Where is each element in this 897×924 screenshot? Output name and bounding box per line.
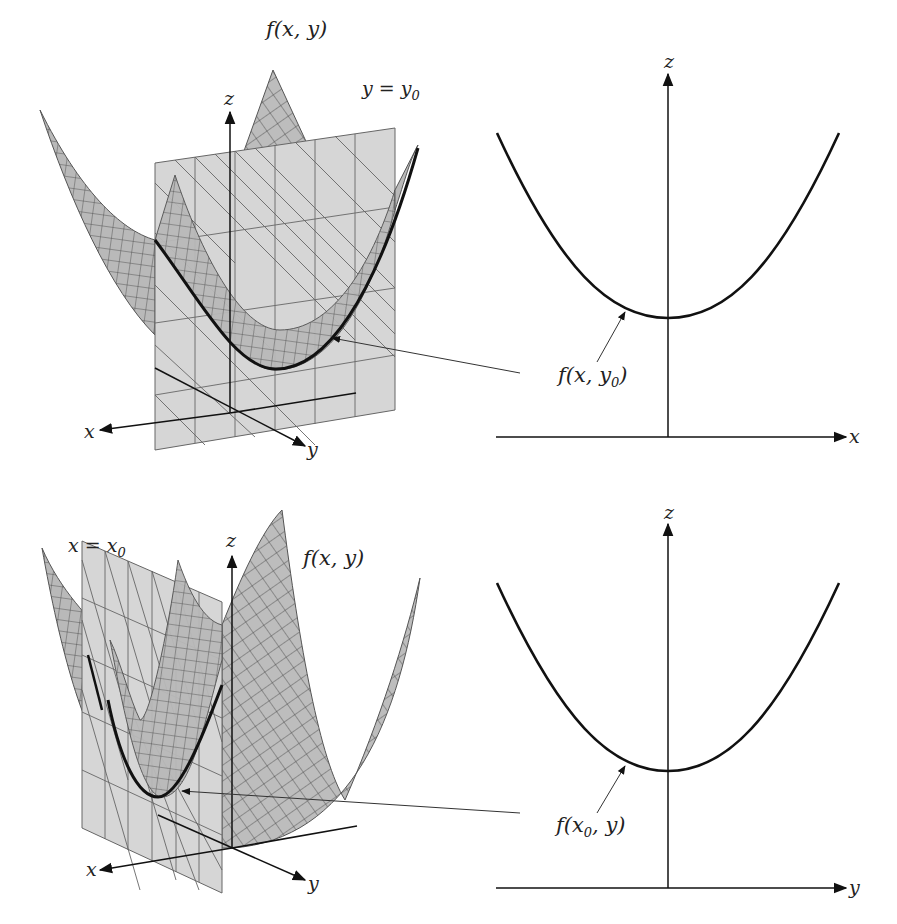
z-axis-label: z	[663, 501, 675, 523]
z-axis-label: z	[663, 50, 675, 72]
y-axis-label: y	[307, 872, 319, 894]
top-right-2d-plot: z x f(x, y0)	[496, 50, 860, 447]
plane-label: y = y0	[361, 77, 420, 103]
surface-label: f(x, y)	[301, 546, 364, 570]
y-axis-label: y	[848, 876, 860, 898]
figure-canvas: f(x, y) y = y0 z x y z x f(x, y0)	[0, 0, 897, 924]
x-axis-label: x	[849, 425, 860, 447]
surface-label: f(x, y)	[264, 17, 327, 41]
top-left-3d-plot: f(x, y) y = y0 z x y	[40, 17, 520, 460]
bottom-right-2d-plot: z y f(x0, y)	[496, 501, 860, 898]
label-pointer	[597, 766, 625, 813]
curve-label: f(x0, y)	[554, 813, 626, 840]
surface-left-wing	[40, 110, 155, 335]
y-axis-label: y	[306, 438, 318, 460]
label-pointer	[597, 312, 625, 362]
x-axis-label: x	[84, 420, 95, 442]
curve-label: f(x, y0)	[556, 363, 628, 390]
x-axis-label: x	[86, 858, 97, 880]
z-axis-label: z	[225, 529, 237, 551]
bottom-left-3d-plot: x = x0 f(x, y) z x y	[42, 510, 520, 894]
z-axis-label: z	[223, 87, 235, 109]
